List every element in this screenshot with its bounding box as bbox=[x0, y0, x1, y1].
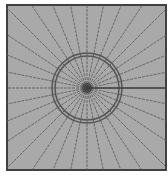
center-point bbox=[82, 83, 92, 93]
radial-mesh-diagram bbox=[0, 0, 168, 180]
